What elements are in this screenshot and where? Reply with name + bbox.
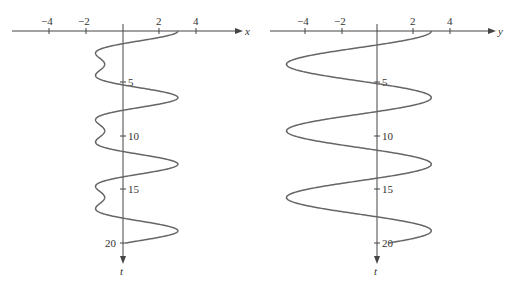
left-plot: −4 −2 2 4 x 5 10 15 20 t xyxy=(12,15,250,277)
x-tick-label: 4 xyxy=(193,15,199,27)
curve-y-of-t xyxy=(287,31,432,243)
t-tick-label: 10 xyxy=(128,130,140,142)
x-tick-label: −2 xyxy=(78,15,90,27)
x-axis-arrow-icon xyxy=(235,28,243,34)
x-tick-label: −4 xyxy=(41,15,53,27)
y-axis-arrow-icon xyxy=(488,28,496,34)
t-tick-label: 10 xyxy=(382,130,394,142)
y-tick-label: 4 xyxy=(447,15,453,27)
y-tick-label: −2 xyxy=(334,15,346,27)
t-tick-label: 15 xyxy=(382,183,394,195)
t-axis-arrow-icon xyxy=(374,256,380,264)
t-axis-label: t xyxy=(374,265,378,277)
x-axis-label: x xyxy=(244,25,250,37)
right-plot: −4 −2 2 4 y 5 10 15 20 t xyxy=(270,15,503,277)
t-tick-label: 20 xyxy=(105,237,117,249)
chart-canvas: −4 −2 2 4 x 5 10 15 20 t −4 −2 2 4 xyxy=(0,0,513,283)
t-axis-arrow-icon xyxy=(120,256,126,264)
t-axis-label: t xyxy=(120,265,124,277)
x-tick-label: 2 xyxy=(156,15,162,27)
y-tick-label: −4 xyxy=(297,15,309,27)
y-axis-label: y xyxy=(497,25,503,37)
t-tick-label: 5 xyxy=(382,76,388,88)
y-tick-label: 2 xyxy=(410,15,416,27)
t-tick-label: 15 xyxy=(128,183,140,195)
